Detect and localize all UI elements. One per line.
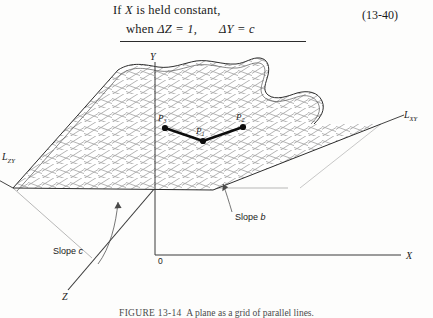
callout-slope-c-label: Slope c — [53, 246, 83, 256]
equation-line-1-post: is held constant, — [133, 3, 221, 17]
equation-line-1: If X is held constant, — [113, 3, 221, 18]
callout-slope-c — [98, 202, 122, 264]
page-root: If X is held constant, when ΔZ = 1,ΔY = … — [0, 0, 433, 318]
callout-slope-b-label: Slope b — [235, 212, 266, 222]
x-axis-label: X — [405, 250, 413, 261]
z-axis-label: Z — [62, 291, 68, 302]
origin-label: 0 — [158, 256, 163, 266]
callout-slope-c-text: Slope — [53, 246, 79, 256]
callout-slope-c-variable: c — [79, 246, 84, 256]
trace-line-lzy-label: LZY — [1, 151, 16, 164]
y-axis-label: Y — [150, 52, 157, 62]
equation-line-1-pre: If — [113, 3, 125, 17]
trace-line-lxy-label: LXY — [403, 109, 419, 122]
figure-caption-text: A plane as a grid of parallel lines. — [186, 308, 314, 318]
plane-grid — [0, 52, 433, 318]
callout-slope-b-text: Slope — [235, 212, 261, 222]
figure-caption-number: FIGURE 13-14 — [119, 308, 181, 318]
z-axis — [68, 188, 155, 290]
figure-caption: FIGURE 13-14 A plane as a grid of parall… — [0, 308, 433, 318]
equation-number: (13-40) — [362, 8, 398, 23]
equation-line-2-expression-1: ΔZ = 1, — [157, 22, 197, 36]
equation-underline — [120, 41, 306, 42]
callout-slope-b-variable: b — [261, 212, 266, 222]
trace-line-lxy: LXY — [381, 109, 419, 124]
trace-line-lzy: LZY — [0, 151, 16, 188]
equation-block: If X is held constant, when ΔZ = 1,ΔY = … — [0, 0, 433, 58]
equation-line-2-pre: when — [126, 22, 157, 36]
equation-line-1-variable: X — [125, 3, 133, 17]
equation-line-2-expression-2: ΔY = c — [219, 22, 255, 36]
x-axis: X — [155, 250, 413, 261]
equation-line-2: when ΔZ = 1,ΔY = c — [126, 22, 255, 37]
figure-13-14: LZY LXY Y X Z 0 — [0, 52, 433, 318]
